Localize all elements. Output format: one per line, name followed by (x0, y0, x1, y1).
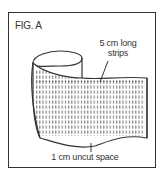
cut-sheet-icon (32, 63, 147, 147)
cut-paper-roll-illustration (0, 0, 167, 177)
